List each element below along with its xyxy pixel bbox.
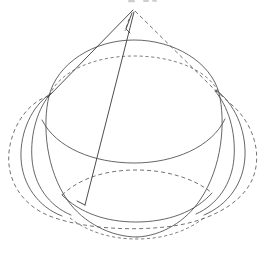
right-lobe-arc bbox=[204, 90, 245, 215]
cone-edges bbox=[48, 10, 134, 205]
tangent-circle-solid-lobes bbox=[21, 90, 245, 216]
top-edge-smudge bbox=[128, 0, 157, 2]
cone-slant-chord bbox=[85, 12, 134, 205]
sphere-upper-outline bbox=[49, 40, 219, 96]
geometry-diagram: Cone circumscribed about a sphere bbox=[0, 0, 269, 258]
sphere-equator bbox=[42, 119, 225, 163]
cone-right-edge bbox=[135, 11, 217, 92]
sphere-base-hidden-arc bbox=[70, 217, 205, 239]
sphere-right-flank bbox=[137, 93, 222, 237]
cone-apex-notch bbox=[126, 13, 132, 29]
tangent-circle-ellipse bbox=[9, 91, 257, 229]
cone-base-ellipse bbox=[49, 56, 219, 96]
right-lobe-inner-arc bbox=[196, 91, 234, 214]
lower-band-ellipse bbox=[62, 170, 212, 195]
sphere-equator-ellipse bbox=[42, 119, 225, 163]
cone-left-edge bbox=[48, 10, 133, 97]
chord-foot-tick bbox=[77, 201, 85, 205]
left-lobe-arc bbox=[21, 94, 62, 216]
sphere-left-flank bbox=[46, 96, 137, 237]
figure-root: Cone circumscribed about a sphere bbox=[0, 0, 269, 258]
